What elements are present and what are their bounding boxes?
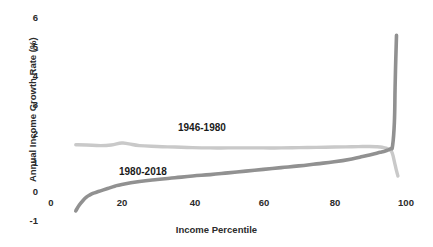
chart-container: Annual Income Growth Rate (%) 6 5 4 3 2 … <box>0 0 433 247</box>
x-tick-label-40: 40 <box>185 198 205 208</box>
y-tick-label-0: 0 <box>22 187 38 197</box>
y-tick-label-2: 2 <box>22 129 38 139</box>
x-tick-label-60: 60 <box>254 198 274 208</box>
x-tick-label-100: 100 <box>394 198 418 208</box>
y-tick-label-4: 4 <box>22 71 38 81</box>
y-tick-label-5: 5 <box>22 42 38 52</box>
y-tick-label-1: 1 <box>22 158 38 168</box>
x-tick-label-20: 20 <box>112 198 132 208</box>
x-axis-title: Income Percentile <box>0 225 433 235</box>
y-tick-label-3: 3 <box>22 100 38 110</box>
x-tick-label-0: 0 <box>41 198 61 208</box>
x-tick-label-80: 80 <box>325 198 345 208</box>
series-annotation-1980-2018: 1980-2018 <box>119 167 167 177</box>
y-tick-label-6: 6 <box>22 13 38 23</box>
series-annotation-1946-1980: 1946-1980 <box>178 123 226 133</box>
